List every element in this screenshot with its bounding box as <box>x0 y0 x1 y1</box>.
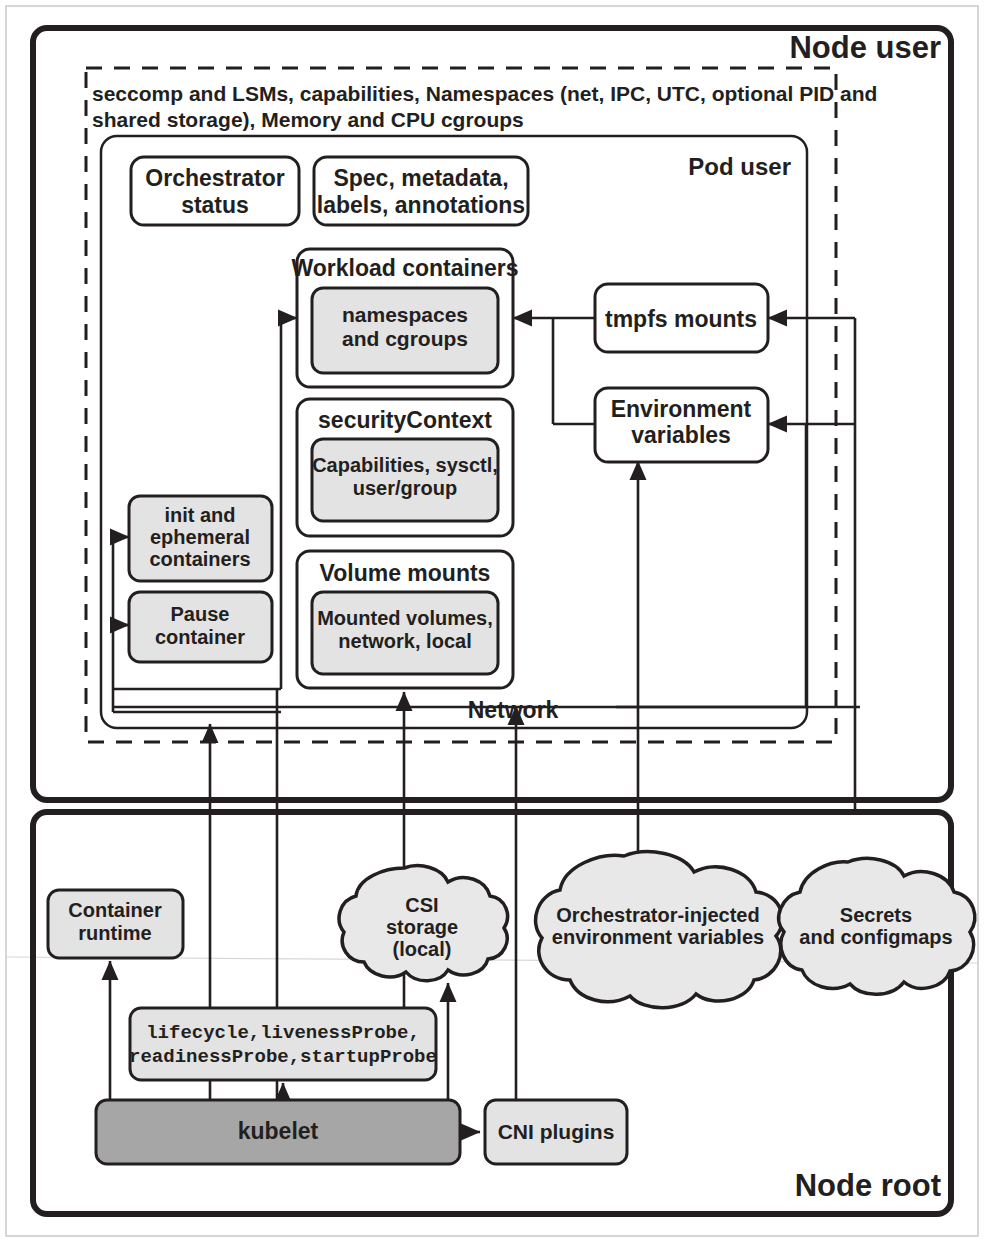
volume-mounts-inner-line1: Mounted volumes, <box>317 607 493 629</box>
volume-mounts-title: Volume mounts <box>320 560 491 586</box>
env-variables-line1: Environment <box>611 396 752 422</box>
dashed-boundary-text-line2: shared storage), Memory and CPU cgroups <box>92 108 524 131</box>
container-runtime-line1: Container <box>68 899 162 921</box>
security-context-inner-line1: Capabilities, sysctl, <box>312 454 498 476</box>
dashed-boundary-text-line1: seccomp and LSMs, capabilities, Namespac… <box>92 82 877 105</box>
node-root-label: Node root <box>795 1168 941 1203</box>
orchestrator-status-line2: status <box>181 192 249 218</box>
secrets-configmaps-line1: Secrets <box>840 904 912 926</box>
workload-containers-title: Workload containers <box>291 255 518 281</box>
volume-mounts-inner-line2: network, local <box>338 630 471 652</box>
kubelet-box: kubelet <box>96 1100 460 1164</box>
probes-line1: lifecycle,livenessProbe, <box>146 1022 420 1044</box>
spec-metadata-box: Spec, metadata, labels, annotations <box>314 157 528 225</box>
spec-metadata-line1: Spec, metadata, <box>333 165 508 191</box>
tmpfs-mounts-label: tmpfs mounts <box>605 306 757 332</box>
env-variables-line2: variables <box>631 422 731 448</box>
security-context-title: securityContext <box>318 407 492 433</box>
workload-inner-line1: namespaces <box>342 303 468 326</box>
csi-storage-line1: CSI <box>405 894 438 916</box>
connector-left-rail-to-workload <box>281 318 297 689</box>
secrets-configmaps-cloud: Secrets and configmaps <box>779 858 975 994</box>
container-runtime-line2: runtime <box>78 922 151 944</box>
csi-storage-cloud: CSI storage (local) <box>339 866 507 981</box>
orchestrator-status-line1: Orchestrator <box>145 165 284 191</box>
pause-container-box: Pause container <box>129 592 272 662</box>
workload-containers-box: Workload containers namespaces and cgrou… <box>291 249 518 387</box>
csi-storage-line2: storage <box>386 916 458 938</box>
network-label: Network <box>468 697 559 723</box>
init-ephemeral-line2: ephemeral <box>150 526 250 548</box>
init-ephemeral-line3: containers <box>149 548 250 570</box>
pause-container-line1: Pause <box>171 603 230 625</box>
node-pod-security-diagram: Node user Node root seccomp and LSMs, ca… <box>0 0 984 1242</box>
pod-user-label: Pod user <box>688 153 791 180</box>
orchestrator-injected-line1: Orchestrator-injected <box>556 904 759 926</box>
csi-storage-line3: (local) <box>393 938 452 960</box>
probes-line2: readinessProbe,startupProbe <box>129 1046 437 1068</box>
cni-plugins-box: CNI plugins <box>485 1100 627 1164</box>
security-context-box: securityContext Capabilities, sysctl, us… <box>297 399 513 536</box>
security-context-inner-line2: user/group <box>353 477 457 499</box>
node-user-label: Node user <box>789 30 941 65</box>
diagram-page: Node user Node root seccomp and LSMs, ca… <box>0 0 984 1242</box>
init-ephemeral-line1: init and <box>164 504 235 526</box>
spec-metadata-line2: labels, annotations <box>317 192 525 218</box>
secrets-configmaps-line2: and configmaps <box>799 926 952 948</box>
connector-env-loop-down <box>616 424 806 707</box>
container-runtime-box: Container runtime <box>48 890 183 958</box>
probes-box: lifecycle,livenessProbe, readinessProbe,… <box>129 1008 437 1080</box>
orchestrator-status-box: Orchestrator status <box>131 157 299 225</box>
tmpfs-mounts-box: tmpfs mounts <box>595 284 768 352</box>
environment-variables-box: Environment variables <box>595 388 768 462</box>
init-ephemeral-containers-box: init and ephemeral containers <box>129 496 272 581</box>
volume-mounts-box: Volume mounts Mounted volumes, network, … <box>297 551 513 688</box>
workload-inner-line2: and cgroups <box>342 327 468 350</box>
orchestrator-injected-line2: environment variables <box>552 926 764 948</box>
orchestrator-injected-env-cloud: Orchestrator-injected environment variab… <box>536 852 783 1008</box>
cni-plugins-label: CNI plugins <box>498 1120 615 1143</box>
pause-container-line2: container <box>155 626 245 648</box>
kubelet-label: kubelet <box>238 1118 319 1144</box>
